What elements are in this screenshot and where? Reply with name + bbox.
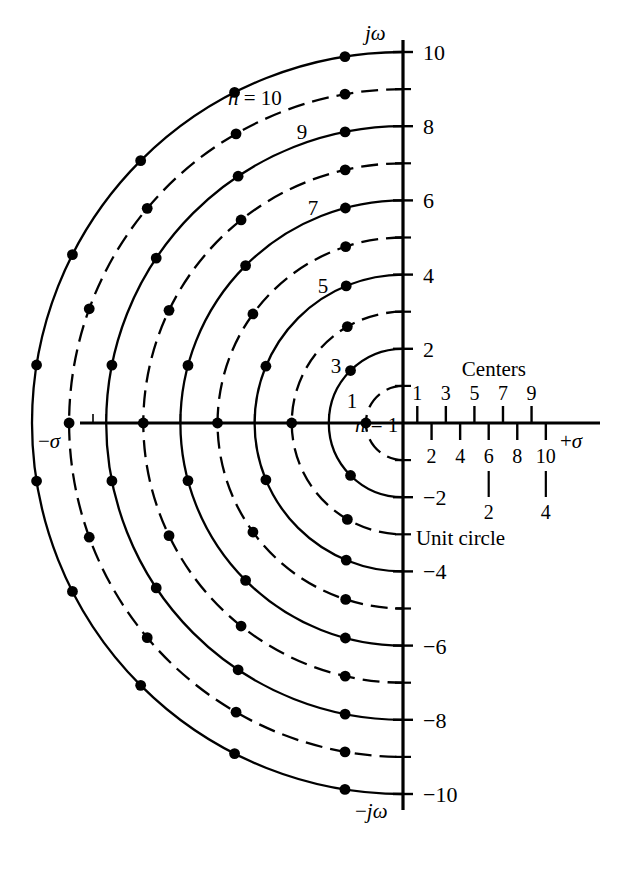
centers-label-odd-1: 1 — [412, 382, 422, 404]
pole-n7-k1 — [236, 215, 247, 226]
pole-n10-k3 — [67, 249, 78, 260]
curve-label-n10: n = 10 — [228, 86, 282, 110]
pole-n8-k1 — [233, 171, 244, 182]
pole-n8-k2 — [151, 253, 162, 264]
chart-canvas: 108642−2−4−6−8−10jω−jω−σ+σ13579246810Cen… — [0, 0, 623, 876]
jw-axis-label-6: 6 — [423, 188, 434, 213]
pole-n4-k1 — [261, 361, 272, 372]
pole-n7-k2 — [164, 305, 175, 316]
pole-n6-k1 — [240, 260, 251, 271]
pole-n5-k3 — [248, 527, 259, 538]
unit-circle-pointer-label-4: 4 — [541, 501, 551, 523]
centers-label-odd-9: 9 — [527, 382, 537, 404]
pole-n6-k3 — [183, 475, 194, 486]
pole-n10-k4 — [31, 360, 42, 371]
centers-heading: Centers — [462, 357, 526, 381]
pole-n7-k0 — [340, 164, 351, 175]
pole-n3-k0 — [342, 321, 353, 332]
pole-n4-k2 — [261, 474, 272, 485]
pole-n10-k8 — [229, 748, 240, 759]
curve-label-7: 7 — [308, 196, 319, 220]
centers-label-odd-5: 5 — [469, 382, 479, 404]
pole-n8-k3 — [107, 360, 118, 371]
jw-axis-label-8: 8 — [423, 114, 434, 139]
pole-n8-k0 — [340, 126, 351, 137]
pole-n6-k4 — [240, 575, 251, 586]
curve-label-3: 3 — [331, 354, 342, 378]
unit-circle-pointer-label-2: 2 — [484, 501, 494, 523]
jw-axis-label--6: −6 — [423, 634, 446, 659]
pole-n9-k5 — [84, 532, 95, 543]
pole-n10-k5 — [31, 476, 42, 487]
pole-n9-k6 — [142, 632, 153, 643]
pole-n7-k5 — [236, 621, 247, 632]
pole-n6-k2 — [183, 360, 194, 371]
centers-label-even-10: 10 — [536, 445, 556, 467]
jw-axis-label-2: 2 — [423, 337, 434, 362]
pole-n5-k4 — [340, 594, 351, 605]
pole-n9-k7 — [231, 707, 242, 718]
axes-layer — [80, 40, 600, 810]
jomega-axis-label: jω — [362, 21, 386, 45]
negative-jomega-axis-label: −jω — [355, 799, 388, 823]
pole-n7-k6 — [340, 671, 351, 682]
pole-n9-k8 — [340, 746, 351, 757]
curve-label-5: 5 — [318, 274, 329, 298]
jw-axis-label-4: 4 — [423, 263, 434, 288]
curve-label-n1: n = 1 — [355, 413, 398, 437]
pole-n10-k0 — [340, 51, 351, 62]
pole-n8-k6 — [233, 664, 244, 675]
pole-n9-k0 — [340, 89, 351, 100]
pole-n6-k0 — [340, 203, 351, 214]
centers-label-even-2: 2 — [427, 445, 437, 467]
negative-sigma-axis-label: −σ — [38, 429, 62, 453]
jw-axis-label--10: −10 — [423, 782, 457, 807]
pole-n6-k5 — [340, 633, 351, 644]
pole-n2-k0 — [345, 365, 356, 376]
pole-n8-k7 — [340, 709, 351, 720]
pole-n7-k4 — [164, 530, 175, 541]
pole-n4-k3 — [341, 555, 352, 566]
pole-n2-k1 — [345, 470, 356, 481]
pole-n9-k3 — [84, 303, 95, 314]
centers-label-odd-3: 3 — [441, 382, 451, 404]
centers-label-odd-7: 7 — [498, 382, 508, 404]
pole-n10-k9 — [340, 784, 351, 795]
pole-n5-k0 — [340, 241, 351, 252]
jw-axis-label--4: −4 — [423, 559, 446, 584]
unit-circle-label: Unit circle — [416, 526, 505, 550]
pole-n10-k2 — [135, 155, 146, 166]
pole-n4-k0 — [341, 281, 352, 292]
curve-label-1: 1 — [347, 389, 358, 413]
jw-axis-label--8: −8 — [423, 708, 446, 733]
pole-n9-k1 — [231, 128, 242, 139]
pole-n8-k4 — [107, 476, 118, 487]
pole-n10-k7 — [135, 680, 146, 691]
pole-n9-k2 — [142, 203, 153, 214]
curve-label-9: 9 — [297, 120, 308, 144]
jw-axis-label-10: 10 — [423, 40, 445, 65]
jw-axis-label--2: −2 — [423, 485, 446, 510]
butterworth-pole-chart: 108642−2−4−6−8−10jω−jω−σ+σ13579246810Cen… — [0, 0, 623, 876]
pole-n5-k1 — [248, 309, 259, 320]
centers-label-even-8: 8 — [512, 445, 522, 467]
centers-label-even-6: 6 — [484, 445, 494, 467]
pole-n8-k5 — [151, 582, 162, 593]
pole-n10-k6 — [67, 586, 78, 597]
centers-label-even-4: 4 — [455, 445, 465, 467]
pole-n9-k4 — [64, 418, 75, 429]
positive-sigma-axis-label: +σ — [560, 429, 584, 453]
pole-n3-k2 — [342, 514, 353, 525]
